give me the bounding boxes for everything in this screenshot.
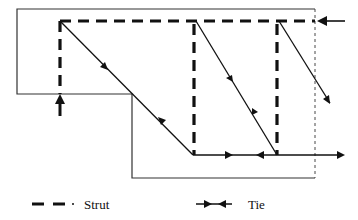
arrow-up-left-icon — [252, 108, 258, 115]
arrow-up-icon — [55, 94, 65, 104]
arrow-right-icon — [337, 151, 345, 159]
legend-tie-label: Tie — [248, 198, 265, 211]
legend-strut-symbol — [32, 203, 73, 205]
strut-tie-diagram — [0, 0, 358, 220]
diagonal-tie-3 — [279, 21, 330, 103]
legend-tie-symbol — [196, 200, 232, 208]
diagonal-tie-2 — [196, 21, 277, 155]
struts — [60, 21, 315, 155]
member-boundary — [17, 9, 315, 178]
arrow-right-icon — [225, 151, 233, 159]
arrow-left-icon — [256, 151, 264, 159]
ties — [60, 21, 342, 155]
diagonal-tie-1 — [60, 21, 193, 155]
loads — [55, 16, 345, 116]
legend-strut-label: Strut — [84, 198, 109, 211]
tie-arrows — [100, 62, 345, 159]
arrow-left-icon — [317, 16, 327, 26]
